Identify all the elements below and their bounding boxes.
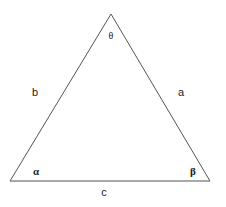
angle-label-top: θ xyxy=(109,30,114,41)
side-label-right: a xyxy=(178,86,185,98)
angle-label-bottom-left: α xyxy=(33,165,40,177)
side-label-left: b xyxy=(32,86,38,98)
side-label-bottom: c xyxy=(101,186,107,198)
angle-label-bottom-right: β xyxy=(190,165,196,177)
triangle-diagram: θ b a α β c xyxy=(0,0,226,207)
triangle-svg: θ b a α β c xyxy=(0,0,226,207)
